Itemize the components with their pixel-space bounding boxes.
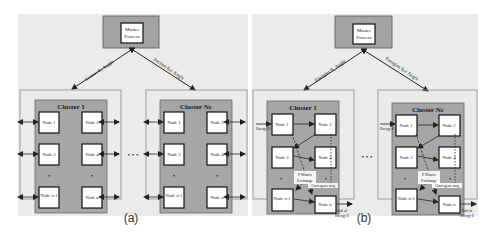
svg-text:Node 3: Node 3 (167, 152, 181, 157)
master-process: Master Process (103, 16, 159, 48)
svg-text:Node 4: Node 4 (442, 155, 456, 160)
cluster-title: Cluster 1 (289, 104, 317, 112)
svg-text:Node 3: Node 3 (42, 152, 56, 157)
energy-out-label-1: End of (337, 209, 348, 213)
convergence-msg-label: Convergence msg (435, 184, 459, 188)
cluster-1: Cluster 1 Node 1 Node 2 Node 3 Node 4 • … (253, 90, 354, 218)
cluster-title: Cluster 1 (57, 103, 85, 111)
panel-b: Master Process Energies θ₁ Angle Energie… (252, 14, 478, 225)
svg-text:Node 1: Node 1 (167, 120, 180, 125)
vertical-dots: • (325, 176, 327, 182)
energy-in-label: Energy E (256, 127, 271, 131)
svg-text:Node n-1: Node n-1 (166, 193, 183, 198)
vertical-dots: • (48, 173, 50, 179)
svg-text:Node 4: Node 4 (318, 155, 332, 160)
svg-text:Node 2: Node 2 (318, 122, 331, 127)
master-label-2: Process (356, 35, 371, 40)
master-process: Master Process (335, 16, 392, 48)
svg-text:Node 4: Node 4 (210, 152, 224, 157)
svg-text:Node n: Node n (85, 195, 99, 200)
energy-out-label-1: End of (462, 209, 473, 213)
svg-text:Node 1: Node 1 (399, 123, 412, 128)
svg-text:Node 2: Node 2 (442, 123, 455, 128)
svg-text:Node n-1: Node n-1 (274, 196, 291, 201)
cluster-ellipsis: • • • (128, 151, 139, 159)
svg-text:Node 3: Node 3 (275, 155, 289, 160)
vertical-dots: • (173, 173, 175, 179)
vertical-dots: • (449, 176, 451, 182)
master-label-2: Process (124, 34, 139, 39)
svg-text:Node n: Node n (318, 202, 332, 207)
vertical-dots: • (404, 176, 406, 182)
svg-text:Node 4: Node 4 (85, 152, 99, 157)
vertical-dots: • (216, 173, 218, 179)
convergence-msg-label: Convergence msg (311, 184, 335, 188)
svg-text:Node 2: Node 2 (210, 120, 223, 125)
cluster-title: Cluster Nc (412, 106, 444, 114)
energy-in-label: Energy E (380, 127, 395, 131)
svg-text:Node 3: Node 3 (399, 155, 413, 160)
pmatrix-label-1: P Matrix (422, 172, 436, 177)
cluster-nc: Cluster Nc Node 1 Node 2 Node 3 Node 4 •… (146, 90, 247, 213)
svg-text:Node n-1: Node n-1 (398, 196, 415, 201)
svg-text:Node 1: Node 1 (42, 120, 55, 125)
caption-b: (b) (357, 211, 372, 225)
panel-a: Master Process Sectors θ₁ Angle Sectors … (18, 14, 248, 225)
svg-text:Node n-1: Node n-1 (41, 193, 58, 198)
svg-text:Node n: Node n (442, 202, 456, 207)
pmatrix-label-1: P Matrix (298, 172, 312, 177)
caption-a: (a) (124, 211, 139, 225)
master-label-1: Master (125, 27, 139, 32)
architecture-diagram: Master Process Sectors θ₁ Angle Sectors … (0, 0, 496, 244)
energy-out-label-2: Energy E (335, 214, 350, 218)
cluster-1: Cluster 1 Node 1 Node 2 Node 3 Node 4 • … (20, 90, 121, 213)
cluster-title: Cluster Nc (180, 103, 212, 111)
svg-text:Node 1: Node 1 (275, 122, 288, 127)
svg-text:Node 2: Node 2 (85, 120, 98, 125)
pmatrix-label-2: Exchange (297, 178, 313, 183)
cluster-ellipsis: • • • (362, 153, 373, 161)
master-label-1: Master (357, 28, 371, 33)
svg-text:Node n: Node n (210, 195, 224, 200)
vertical-dots: • (280, 176, 282, 182)
pmatrix-label-2: Exchange (421, 178, 437, 183)
cluster-nc: Cluster Nc Node 1 Node 2 Node 3 Node 4 •… (378, 90, 477, 218)
energy-out-label-2: Energy E (460, 214, 475, 218)
vertical-dots: • (91, 173, 93, 179)
